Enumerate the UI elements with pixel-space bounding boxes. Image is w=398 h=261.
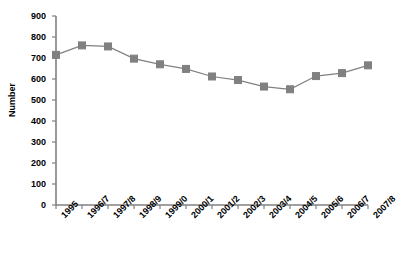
x-axis-tick-label: 2000/1 bbox=[189, 194, 216, 221]
x-axis-tick-label: 1997/8 bbox=[111, 194, 138, 221]
x-axis-tick-label: 1996/7 bbox=[85, 194, 112, 221]
x-axis-tick-label: 2007/8 bbox=[371, 194, 398, 221]
x-axis-tick-label: 2002/3 bbox=[241, 194, 268, 221]
x-axis-tick-label: 2006/7 bbox=[345, 194, 372, 221]
x-axis-tick-label: 1999/0 bbox=[163, 194, 190, 221]
x-axis-tick-label: 1995 bbox=[59, 199, 80, 220]
x-axis-tick-label: 2005/6 bbox=[319, 194, 346, 221]
x-axis-tick-label: 2001/2 bbox=[215, 194, 242, 221]
x-axis-tick-label: 2003/4 bbox=[267, 194, 294, 221]
x-axis-tick-label: 1998/9 bbox=[137, 194, 164, 221]
x-axis-tick-label: 2004/5 bbox=[293, 194, 320, 221]
